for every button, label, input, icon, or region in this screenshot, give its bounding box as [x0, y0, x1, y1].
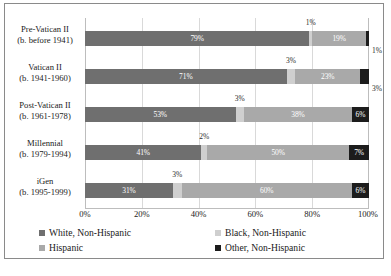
category-label-1-line1: Vatican II [7, 62, 83, 73]
legend-swatch-hispanic-icon [39, 245, 45, 251]
x-tick-label-0: 0% [79, 210, 90, 219]
category-label-3-line2: (b. 1979-1994) [7, 149, 83, 160]
stacked-bar-0: 79% 1% 19% 1% [85, 31, 369, 46]
bar-value-label-hispanic-2: 38% [291, 111, 304, 119]
bar-value-label-hispanic-3: 50% [271, 149, 284, 157]
category-label-1: Vatican II (b. 1941-1960) [7, 62, 83, 83]
stacked-bar-1: 71% 3% 23% 3% [85, 69, 369, 84]
stacked-bar-3: 41% 2% 50% 7% [85, 145, 369, 160]
category-label-3: Millennial (b. 1979-1994) [7, 138, 83, 159]
x-axis-line [85, 208, 369, 209]
bar-value-label-black-0: 1% [306, 19, 316, 27]
bar-value-label-white-3: 41% [136, 149, 149, 157]
chart-frame: Pre-Vatican II (b. before 1941) Vatican … [4, 3, 384, 259]
bar-value-label-black-2: 3% [235, 95, 245, 103]
bar-segment-white-2[interactable]: 53% [85, 107, 236, 122]
bar-value-label-other-1: 3% [372, 85, 382, 93]
category-label-0: Pre-Vatican II (b. before 1941) [7, 24, 83, 45]
legend-label-other: Other, Non-Hispanic [225, 243, 305, 253]
bar-value-label-white-2: 53% [154, 111, 167, 119]
category-label-2-line2: (b. 1961-1978) [7, 111, 83, 122]
legend-item-other[interactable]: Other, Non-Hispanic [215, 241, 305, 254]
x-tick-label-20: 20% [134, 210, 150, 219]
legend-label-white: White, Non-Hispanic [49, 228, 131, 238]
stacked-bar-2: 53% 3% 38% 6% [85, 107, 369, 122]
bar-segment-other-1[interactable] [360, 69, 369, 84]
bar-value-label-white-1: 71% [179, 73, 192, 81]
bar-segment-hispanic-1[interactable]: 23% [295, 69, 360, 84]
category-label-4-line2: (b. 1995-1999) [7, 187, 83, 198]
bar-row-4: 31% 3% 60% 6% [85, 170, 369, 208]
bar-segment-hispanic-4[interactable]: 60% [182, 183, 352, 198]
legend-item-hispanic[interactable]: Hispanic [39, 241, 83, 254]
bar-value-label-other-2: 6% [356, 111, 366, 119]
bar-value-label-other-0: 1% [372, 47, 382, 55]
y-axis-labels: Pre-Vatican II (b. before 1941) Vatican … [5, 18, 83, 208]
bar-value-label-black-1: 3% [286, 57, 296, 65]
category-label-0-line2: (b. before 1941) [7, 35, 83, 46]
bar-segment-black-1[interactable]: 3% [287, 69, 296, 84]
bar-row-2: 53% 3% 38% 6% [85, 94, 369, 132]
category-label-1-line2: (b. 1941-1960) [7, 73, 83, 84]
legend-swatch-other-icon [215, 245, 221, 251]
bar-segment-white-0[interactable]: 79% [85, 31, 309, 46]
figure-container: Pre-Vatican II (b. before 1941) Vatican … [0, 0, 391, 276]
bar-value-label-hispanic-4: 60% [260, 187, 273, 195]
bar-segment-white-3[interactable]: 41% [85, 145, 201, 160]
legend-swatch-black-icon [215, 230, 221, 236]
legend-label-black: Black, Non-Hispanic [225, 228, 306, 238]
bar-value-label-black-4: 3% [172, 171, 182, 179]
bar-segment-hispanic-2[interactable]: 38% [244, 107, 352, 122]
bar-value-label-hispanic-0: 19% [332, 35, 345, 43]
x-tick-label-40: 40% [191, 210, 207, 219]
x-tick-label-100: 100% [358, 210, 378, 219]
plot-area: 79% 1% 19% 1% 71% [85, 18, 369, 208]
stacked-bar-4: 31% 3% 60% 6% [85, 183, 369, 198]
category-label-4: iGen (b. 1995-1999) [7, 176, 83, 197]
category-label-2-line1: Post-Vatican II [7, 100, 83, 111]
bar-segment-hispanic-0[interactable]: 19% [312, 31, 366, 46]
bar-value-label-hispanic-1: 23% [321, 73, 334, 81]
bar-segment-white-4[interactable]: 31% [85, 183, 173, 198]
bar-segment-other-2[interactable]: 6% [352, 107, 369, 122]
bar-value-label-black-3: 2% [199, 133, 209, 141]
bar-value-label-other-3: 7% [354, 149, 364, 157]
bar-segment-white-1[interactable]: 71% [85, 69, 287, 84]
bar-value-label-white-4: 31% [122, 187, 135, 195]
x-tick-label-60: 60% [248, 210, 264, 219]
bar-segment-black-4[interactable]: 3% [173, 183, 182, 198]
category-label-4-line1: iGen [7, 176, 83, 187]
bar-segment-other-3[interactable]: 7% [349, 145, 369, 160]
bar-row-0: 79% 1% 19% 1% [85, 18, 369, 56]
legend-item-white[interactable]: White, Non-Hispanic [39, 226, 131, 239]
bar-row-1: 71% 3% 23% 3% [85, 56, 369, 94]
bar-segment-other-0[interactable] [366, 31, 369, 46]
bar-segment-other-4[interactable]: 6% [352, 183, 369, 198]
category-label-3-line1: Millennial [7, 138, 83, 149]
category-label-2: Post-Vatican II (b. 1961-1978) [7, 100, 83, 121]
legend-item-black[interactable]: Black, Non-Hispanic [215, 226, 306, 239]
x-tick-label-80: 80% [304, 210, 320, 219]
bar-value-label-other-4: 6% [356, 187, 366, 195]
legend-label-hispanic: Hispanic [49, 243, 83, 253]
bar-segment-hispanic-3[interactable]: 50% [207, 145, 349, 160]
bar-segment-black-2[interactable]: 3% [236, 107, 245, 122]
legend-swatch-white-icon [39, 230, 45, 236]
x-axis-labels: 0% 20% 40% 60% 80% 100% [85, 210, 369, 224]
bar-row-3: 41% 2% 50% 7% [85, 132, 369, 170]
bar-value-label-white-0: 79% [190, 35, 203, 43]
category-label-0-line1: Pre-Vatican II [7, 24, 83, 35]
chart-legend: White, Non-Hispanic Black, Non-Hispanic … [39, 226, 359, 256]
